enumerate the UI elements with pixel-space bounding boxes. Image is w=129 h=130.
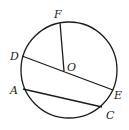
circle-diagram: F D O E A C xyxy=(0,0,129,130)
label-f: F xyxy=(53,8,62,21)
segment-of xyxy=(60,23,64,72)
label-a: A xyxy=(9,84,18,97)
label-o: O xyxy=(67,61,76,74)
label-d: D xyxy=(9,50,19,63)
label-c: C xyxy=(106,109,115,122)
label-e: E xyxy=(113,89,122,102)
